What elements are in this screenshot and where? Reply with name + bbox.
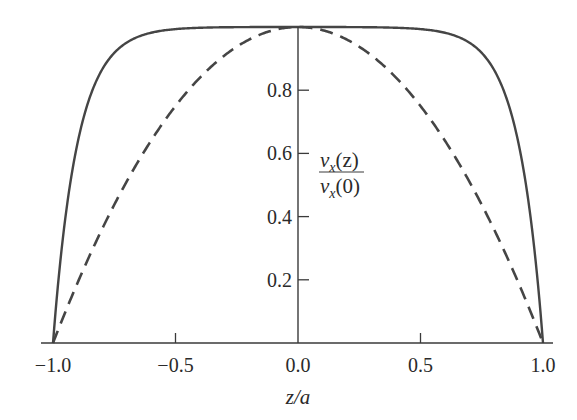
x-tick-label: 0.5 [408,354,433,376]
y-tick-label: 0.8 [267,79,292,101]
y-tick-label: 0.2 [267,269,292,291]
y-tick-label: 0.6 [267,142,292,164]
y-ticks: 0.20.40.60.8 [267,79,309,291]
y-axis-label: vx(z) vx(0) [319,148,364,201]
chart: −1.0−0.50.00.51.0 0.20.40.60.8 vx(z) vx(… [0,0,577,420]
svg-text:vx(0): vx(0) [320,174,360,201]
x-tick-label: 1.0 [531,354,556,376]
x-axis-label: z/a [285,385,311,409]
x-ticks: −1.0−0.50.00.51.0 [35,333,556,376]
x-tick-label: −1.0 [35,354,71,376]
svg-text:vx(z): vx(z) [320,148,359,175]
x-tick-label: 0.0 [286,354,311,376]
x-tick-label: −0.5 [157,354,193,376]
y-tick-label: 0.4 [267,206,292,228]
